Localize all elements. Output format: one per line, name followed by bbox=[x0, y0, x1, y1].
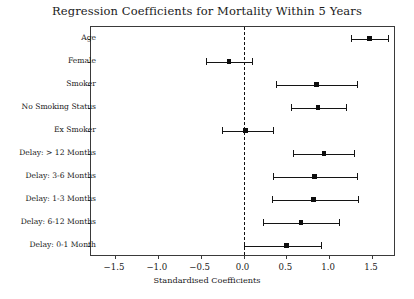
chart-title: Regression Coefficients for Mortality Wi… bbox=[0, 4, 414, 18]
ci-upper-cap bbox=[357, 173, 358, 180]
x-tick-mark bbox=[372, 255, 373, 259]
ci-upper-cap bbox=[354, 150, 355, 157]
y-tick-label: Delay: 0-1 Month bbox=[29, 241, 96, 249]
ci-lower-cap bbox=[263, 219, 264, 226]
ci-lower-cap bbox=[291, 104, 292, 111]
y-tick-label: Smoker bbox=[66, 80, 96, 88]
y-tick-label: Ex Smoker bbox=[54, 126, 96, 134]
ci-upper-cap bbox=[321, 242, 322, 249]
coefficient-point-marker bbox=[316, 105, 321, 110]
ci-lower-cap bbox=[276, 81, 277, 88]
y-tick-label: Delay: > 12 Months bbox=[19, 149, 96, 157]
coefficient-point-marker bbox=[284, 243, 289, 248]
coefficient-point-marker bbox=[314, 82, 319, 87]
y-tick-label: Age bbox=[81, 34, 96, 42]
x-tick-label: −0.5 bbox=[189, 262, 210, 272]
ci-lower-cap bbox=[206, 58, 207, 65]
confidence-interval-bar bbox=[244, 246, 321, 247]
ci-lower-cap bbox=[293, 150, 294, 157]
ci-lower-cap bbox=[351, 35, 352, 42]
coefficient-point-marker bbox=[311, 197, 316, 202]
y-tick-label: Delay: 6-12 Months bbox=[21, 218, 96, 226]
coefficient-point-marker bbox=[322, 151, 327, 156]
x-tick-mark bbox=[329, 255, 330, 259]
ci-upper-cap bbox=[273, 127, 274, 134]
ci-upper-cap bbox=[346, 104, 347, 111]
ci-lower-cap bbox=[272, 196, 273, 203]
confidence-interval-bar bbox=[222, 131, 273, 132]
ci-upper-cap bbox=[357, 81, 358, 88]
coefficient-point-marker bbox=[312, 174, 317, 179]
x-tick-label: −1.0 bbox=[146, 262, 167, 272]
ci-lower-cap bbox=[244, 242, 245, 249]
x-tick-label: −1.5 bbox=[104, 262, 125, 272]
y-tick-label: Female bbox=[68, 57, 96, 65]
plot-area bbox=[90, 26, 395, 256]
x-tick-label: 1.0 bbox=[321, 262, 335, 272]
x-tick-mark bbox=[201, 255, 202, 259]
coefficient-point-marker bbox=[243, 128, 248, 133]
coefficient-point-marker bbox=[299, 220, 304, 225]
x-tick-label: 0.0 bbox=[236, 262, 250, 272]
ci-upper-cap bbox=[339, 219, 340, 226]
y-tick-label: No Smoking Status bbox=[22, 103, 96, 111]
y-tick-label: Delay: 1-3 Months bbox=[25, 195, 96, 203]
ci-lower-cap bbox=[222, 127, 223, 134]
ci-upper-cap bbox=[358, 196, 359, 203]
x-tick-mark bbox=[115, 255, 116, 259]
x-tick-label: 0.5 bbox=[278, 262, 292, 272]
ci-upper-cap bbox=[388, 35, 389, 42]
coefficient-point-marker bbox=[227, 59, 232, 64]
coefficient-point-marker bbox=[367, 36, 372, 41]
forest-plot-figure: Regression Coefficients for Mortality Wi… bbox=[0, 0, 414, 299]
x-tick-mark bbox=[286, 255, 287, 259]
x-axis-title: Standardised Coefficients bbox=[0, 275, 414, 285]
x-tick-label: 1.5 bbox=[364, 262, 378, 272]
x-tick-mark bbox=[244, 255, 245, 259]
x-tick-mark bbox=[158, 255, 159, 259]
ci-lower-cap bbox=[273, 173, 274, 180]
y-tick-label: Delay: 3-6 Months bbox=[25, 172, 96, 180]
ci-upper-cap bbox=[252, 58, 253, 65]
